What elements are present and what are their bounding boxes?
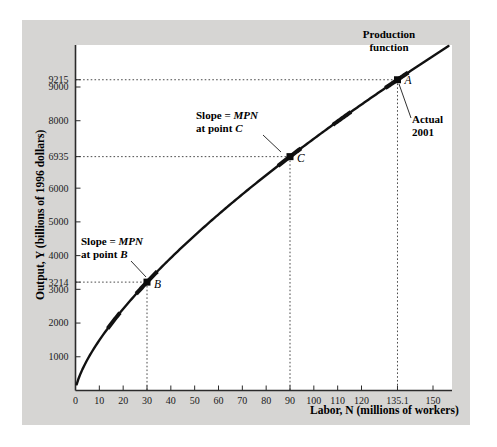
slope-b-leader-line (131, 261, 146, 277)
x-axis-tick-label: 40 (166, 395, 176, 406)
annotation-slope-c: Slope = MPN at point C (196, 109, 281, 152)
data-point-label-a: A (403, 74, 412, 86)
x-axis-tick-label: 20 (118, 395, 128, 406)
y-axis-tick-label: 3214 (49, 277, 69, 288)
production-function-curve-group (77, 46, 449, 384)
y-axis-title: Output, Y (billions of 1996 dollars) (34, 129, 47, 300)
slope-c-line2: at point C (196, 122, 243, 134)
actual-2001-line1: Actual (412, 113, 443, 125)
production-function-curve (77, 46, 449, 384)
annotation-actual-2001: Actual 2001 (399, 84, 443, 138)
y-axis-tick-label: 5000 (49, 216, 69, 227)
x-axis-tick-label: 90 (285, 395, 295, 406)
tangent-segment-mid-high (333, 112, 351, 125)
y-axis-tick-label: 6935 (49, 151, 69, 162)
y-axis-tick-label: 9215 (49, 74, 69, 85)
data-point-a[interactable] (394, 76, 401, 83)
tangent-segment-mid-low (108, 313, 120, 329)
slope-b-line2: at point B (81, 248, 127, 260)
y-axis-tick-labels: 1000200030003214400050006000693580009000… (49, 74, 69, 362)
x-axis-tick-label: 0 (73, 395, 78, 406)
slope-b-line1: Slope = MPN (81, 235, 144, 247)
marked-points (144, 76, 401, 285)
y-axis-tick-label: 1000 (49, 351, 69, 362)
x-axis-tick-label: 30 (142, 395, 152, 406)
slope-c-leader-line (263, 135, 281, 152)
slope-c-line1: Slope = MPN (196, 109, 259, 121)
x-axis-tick-label: 50 (190, 395, 200, 406)
production-function-chart: 1000200030003214400050006000693580009000… (0, 0, 497, 447)
production-function-label-line1: Production (363, 28, 415, 40)
y-axis-tick-label: 8000 (49, 115, 69, 126)
actual-2001-leader-line (399, 84, 411, 118)
x-axis-title: Labor, N (millions of workers) (310, 404, 459, 417)
x-axis-tick-label: 70 (237, 395, 247, 406)
y-axis-tick-label: 4000 (49, 250, 69, 261)
data-point-label-b: B (154, 278, 161, 290)
data-point-label-c: C (297, 152, 305, 164)
x-axis-tick-label: 80 (261, 395, 271, 406)
axes (76, 45, 453, 391)
x-axis-tick-label: 60 (214, 395, 224, 406)
annotation-slope-b: Slope = MPN at point B (81, 235, 146, 277)
y-axis-tick-label: 6000 (49, 183, 69, 194)
y-axis-tick-label: 2000 (49, 317, 69, 328)
annotation-production-function: Production function (363, 28, 415, 53)
data-point-b[interactable] (144, 279, 151, 286)
x-axis-tick-label: 10 (94, 395, 104, 406)
actual-2001-line2: 2001 (412, 126, 434, 138)
production-function-label-line2: function (369, 41, 408, 53)
data-point-c[interactable] (287, 153, 294, 160)
production-function-figure: 1000200030003214400050006000693580009000… (0, 0, 497, 447)
